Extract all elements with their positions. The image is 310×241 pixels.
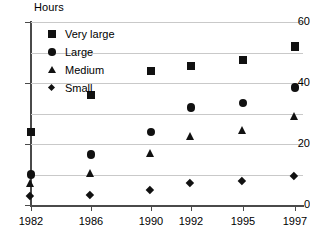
legend-item-medium[interactable]: Medium xyxy=(52,61,162,79)
legend-item-small[interactable]: Small xyxy=(52,79,162,97)
x-tick-mark-1986 xyxy=(91,205,92,211)
legend-item-very-large[interactable]: Very large xyxy=(52,25,162,43)
x-tick-mark-1992 xyxy=(191,205,192,211)
legend-item-label: Large xyxy=(65,43,93,61)
gridline-y-0 xyxy=(31,205,303,206)
legend-item-label: Very large xyxy=(65,25,115,43)
x-tick-mark-1982 xyxy=(31,205,32,211)
legend-item-label: Small xyxy=(65,79,93,97)
y-tick-mark-40 xyxy=(25,83,31,84)
y-axis-title: Hours xyxy=(34,1,64,13)
legend-item-large[interactable]: Large xyxy=(52,43,162,61)
x-tick-label-1995: 1995 xyxy=(220,215,266,227)
y-tick-label-40: 40 xyxy=(286,76,310,88)
legend-item-label: Medium xyxy=(65,61,104,79)
y-tick-label-20: 20 xyxy=(286,137,310,149)
gridline-y-10 xyxy=(31,175,303,176)
x-tick-mark-1990 xyxy=(151,205,152,211)
y-tick-mark-60 xyxy=(25,22,31,23)
x-tick-label-1986: 1986 xyxy=(68,215,114,227)
x-tick-mark-1995 xyxy=(243,205,244,211)
y-tick-label-60: 60 xyxy=(286,15,310,27)
x-tick-label-1982: 1982 xyxy=(8,215,54,227)
y-tick-label-0: 0 xyxy=(286,198,310,210)
x-tick-label-1997: 1997 xyxy=(272,215,310,227)
gridline-y-20 xyxy=(31,144,303,145)
gridline-y-30 xyxy=(31,114,303,115)
x-tick-label-1992: 1992 xyxy=(168,215,214,227)
chart-container: Hours 6040200 198219861990199219951997 V… xyxy=(0,0,310,241)
gridline-y-60 xyxy=(31,22,303,23)
y-tick-mark-20 xyxy=(25,144,31,145)
chart-legend: Very largeLargeMediumSmall xyxy=(52,25,162,97)
x-tick-mark-1997 xyxy=(295,205,296,211)
